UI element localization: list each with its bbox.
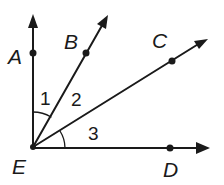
ray-ec [33,43,200,147]
point-a [30,50,37,57]
point-c [169,58,176,65]
angle-diagram: A B C D E 1 2 3 [0,0,224,185]
angle-label-3: 3 [88,123,99,144]
angle-arc-1 [33,112,51,117]
angle-label-2: 2 [71,89,82,110]
arrowhead-a-icon [28,14,38,28]
angle-label-1: 1 [40,88,51,109]
label-b: B [64,30,78,53]
angle-arc-3 [60,131,65,148]
label-c: C [152,29,168,52]
point-d [167,145,174,152]
label-d: D [163,158,178,181]
point-e [30,144,36,150]
label-a: A [6,45,22,68]
label-e: E [12,155,27,178]
point-b [83,50,90,57]
arrowhead-c-icon [194,39,208,49]
arrowhead-d-icon [196,142,210,154]
arrowhead-b-icon [97,15,108,29]
